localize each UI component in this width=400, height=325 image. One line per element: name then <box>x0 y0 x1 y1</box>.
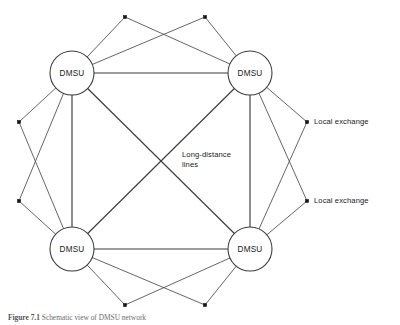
access-link-ex-left-upper-to-dmsu-bottom-left <box>20 123 64 228</box>
local-exchange-dot-ex-left-upper <box>17 120 20 123</box>
access-link-ex-left-upper-to-dmsu-top-left <box>20 88 56 121</box>
access-link-ex-bottom-left-to-dmsu-bottom-left <box>87 265 124 304</box>
local-exchange-dot-ex-top-right <box>203 15 206 18</box>
dmsu-label-dmsu-top-right: DMSU <box>238 69 263 78</box>
figure-caption: Figure 7.1 Schematic view of DMSU networ… <box>8 313 146 325</box>
dmsu-label-dmsu-bottom-right: DMSU <box>238 245 263 254</box>
access-link-ex-right-upper-to-dmsu-bottom-right <box>259 123 306 228</box>
local-exchange-dot-ex-top-left <box>123 15 126 18</box>
access-link-ex-right-upper-to-dmsu-top-right <box>267 87 306 121</box>
dmsu-label-dmsu-bottom-left: DMSU <box>60 245 85 254</box>
access-link-ex-top-right-to-dmsu-top-right <box>206 18 236 56</box>
access-link-ex-top-left-to-dmsu-top-right <box>126 18 229 64</box>
access-link-ex-left-lower-to-dmsu-top-left <box>20 93 64 199</box>
access-link-ex-left-lower-to-dmsu-bottom-left <box>20 202 56 234</box>
access-link-ex-top-right-to-dmsu-top-left <box>92 18 203 65</box>
long-distance-lines-label-line2: lines <box>182 160 231 170</box>
local-exchange-label-lower: Local exchange <box>314 196 369 205</box>
figure-caption-label: Figure <box>8 313 29 322</box>
local-exchange-dot-ex-bottom-right <box>203 303 206 306</box>
local-exchange-dot-ex-bottom-left <box>123 303 126 306</box>
dmsu-label-dmsu-top-left: DMSU <box>60 69 85 78</box>
local-exchange-label-upper: Local exchange <box>314 117 369 126</box>
local-exchange-dot-ex-right-upper <box>305 120 308 123</box>
network-diagram: DMSUDMSUDMSUDMSU Long-distance lines Loc… <box>0 0 400 325</box>
local-exchange-dot-ex-right-lower <box>305 199 308 202</box>
access-link-ex-right-lower-to-dmsu-top-right <box>259 93 306 199</box>
dmsu-node-dmsu-bottom-left: DMSU <box>50 227 94 271</box>
access-link-ex-bottom-right-to-dmsu-bottom-right <box>206 266 236 304</box>
dmsu-node-dmsu-top-left: DMSU <box>50 51 94 95</box>
access-link-ex-bottom-left-to-dmsu-bottom-right <box>126 258 229 304</box>
figure-caption-number: 7.1 <box>31 313 40 322</box>
figure-caption-text: Schematic view of DMSU network <box>42 313 146 322</box>
long-distance-lines-label-line1: Long-distance <box>182 150 231 160</box>
access-link-ex-top-left-to-dmsu-top-left <box>87 18 124 57</box>
dmsu-node-dmsu-top-right: DMSU <box>228 51 272 95</box>
access-link-ex-right-lower-to-dmsu-bottom-right <box>267 202 306 235</box>
local-exchange-dot-ex-left-lower <box>17 199 20 202</box>
long-distance-lines-label: Long-distance lines <box>182 150 231 170</box>
dmsu-node-dmsu-bottom-right: DMSU <box>228 227 272 271</box>
access-link-ex-bottom-right-to-dmsu-bottom-left <box>92 258 203 305</box>
